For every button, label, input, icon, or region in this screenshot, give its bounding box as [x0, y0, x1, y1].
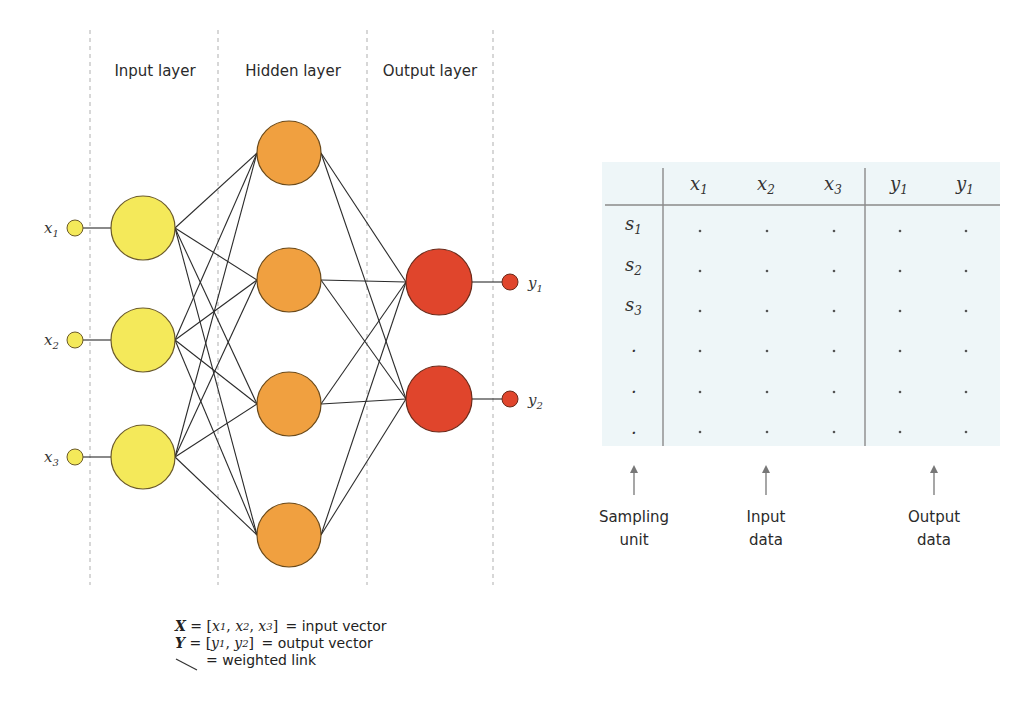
row-label-6: . [631, 417, 637, 438]
output-neuron-1 [406, 249, 472, 315]
annotation-sampling-unit-2: unit [619, 531, 648, 549]
input-terminal-1 [67, 220, 83, 236]
hidden-layer-label: Hidden layer [245, 62, 341, 80]
output-terminals: y1 y2 [502, 274, 543, 411]
annotation-arrows [630, 465, 938, 495]
input-label-2: x2 [44, 331, 59, 351]
annotation-input-data-2: data [749, 531, 783, 549]
hidden-neuron-2 [257, 248, 321, 312]
legend: X = [ x1, x2, x3] = input vector Y = [ y… [175, 618, 387, 669]
output-neuron-2 [406, 366, 472, 432]
diagram-canvas: Input layer Hidden layer Output layer x1… [0, 0, 1027, 725]
input-terminals: x1 x2 x3 [44, 219, 83, 468]
input-label-1: x1 [44, 219, 59, 239]
input-neuron-1 [111, 196, 175, 260]
hidden-neuron-3 [257, 372, 321, 436]
row-label-4: . [631, 335, 637, 356]
output-label-2: y2 [527, 391, 543, 411]
annotation-sampling-unit-1: Sampling [599, 508, 669, 526]
hidden-neuron-4 [257, 503, 321, 567]
annotation-input-data-1: Input [747, 508, 786, 526]
legend-input-vector: X = [ x1, x2, x3] = input vector [175, 618, 387, 635]
input-layer-label: Input layer [114, 62, 196, 80]
input-terminal-3 [67, 449, 83, 465]
output-neurons [406, 249, 472, 432]
arrow-up-icon [630, 465, 638, 495]
hidden-neurons [257, 121, 321, 567]
annotation-output-data-1: Output [908, 508, 960, 526]
input-neurons [111, 196, 175, 489]
legend-weighted-link: = weighted link [175, 652, 387, 669]
annotation-output-data-2: data [917, 531, 951, 549]
input-label-3: x3 [44, 448, 59, 468]
arrow-up-icon [762, 465, 770, 495]
data-table: x1 x2 x3 y1 y1 s1 s2 s3 . . . [599, 162, 1000, 549]
input-neuron-2 [111, 308, 175, 372]
input-neuron-3 [111, 425, 175, 489]
hidden-neuron-1 [257, 121, 321, 185]
output-label-1: y1 [527, 274, 543, 294]
output-terminal-2 [502, 391, 518, 407]
input-terminal-2 [67, 332, 83, 348]
output-layer-label: Output layer [383, 62, 478, 80]
legend-output-vector: Y = [ y1, y2] = output vector [175, 635, 387, 652]
arrow-up-icon [930, 465, 938, 495]
output-terminal-1 [502, 274, 518, 290]
row-label-5: . [631, 376, 637, 397]
